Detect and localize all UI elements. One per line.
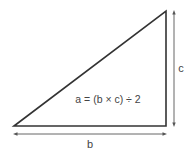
right-triangle [14,11,166,126]
height-dimension-arrow [172,10,175,127]
triangle-diagram: a = (b × c) ÷ 2 b c [0,0,193,158]
base-label: b [87,138,93,150]
base-dimension-arrow [13,132,167,135]
height-label: c [178,62,184,74]
formula-label: a = (b × c) ÷ 2 [75,93,140,105]
